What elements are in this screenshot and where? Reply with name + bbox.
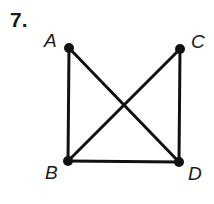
- graph-diagram: [0, 0, 214, 204]
- edge-bd: [68, 161, 179, 162]
- vertex-label-b: B: [45, 163, 58, 182]
- vertex-point-a: [64, 43, 74, 53]
- edge-cd: [179, 49, 180, 162]
- vertex-label-a: A: [44, 31, 57, 50]
- vertex-point-d: [174, 157, 184, 167]
- graph-figure: 7. ACBD: [0, 0, 214, 204]
- edge-ab: [68, 48, 69, 161]
- graph-edges: [68, 48, 180, 162]
- vertex-label-c: C: [191, 32, 205, 51]
- vertex-point-c: [175, 44, 185, 54]
- vertex-point-b: [63, 156, 73, 166]
- vertex-label-d: D: [188, 164, 202, 183]
